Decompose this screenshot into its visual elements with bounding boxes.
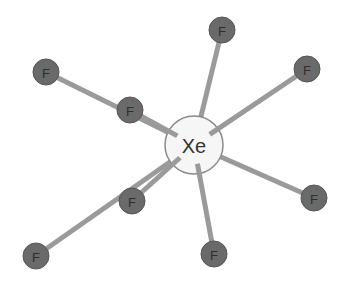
fluorine-atom-5: F — [117, 97, 143, 123]
fluorine-atom-1: F — [33, 59, 59, 85]
fluorine-atom-label: F — [218, 24, 226, 39]
fluorine-atom-label: F — [303, 63, 311, 78]
bond-xe-f-3 — [221, 157, 314, 198]
fluorine-atom-4: F — [23, 243, 49, 269]
fluorine-atom-label: F — [128, 195, 136, 210]
fluorine-atom-8: F — [119, 188, 145, 214]
fluorine-atom-2: F — [209, 17, 235, 43]
fluorine-atom-label: F — [210, 248, 218, 263]
fluorine-atom-label: F — [42, 66, 50, 81]
fluorine-atom-label: F — [32, 250, 40, 265]
fluorine-atom-label: F — [126, 104, 134, 119]
fluorine-atom-label: F — [310, 192, 318, 207]
xenon-atom-label: Xe — [182, 135, 206, 157]
bond-xe-f-4 — [36, 162, 170, 256]
fluorine-atom-7: F — [201, 241, 227, 267]
bond-xe-f-7 — [197, 164, 214, 254]
bond-xe-f-6 — [210, 69, 307, 134]
fluorine-atom-6: F — [294, 56, 320, 82]
xef8-molecule-diagram: FFFF Xe FFFF — [0, 0, 349, 284]
fluorine-atom-3: F — [301, 185, 327, 211]
